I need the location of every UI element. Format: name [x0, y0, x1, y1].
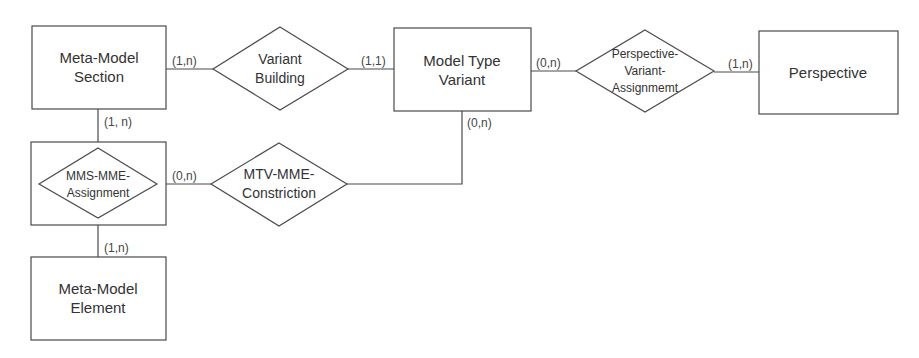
entity-meta-model-element[interactable]: Meta-Model Element: [31, 257, 166, 340]
relationship-label-line2: Assignment: [67, 186, 130, 200]
entity-label-line1: Perspective: [789, 64, 867, 81]
entity-label-line1: Meta-Model: [59, 49, 138, 66]
relationship-label-line1: Perspective-: [612, 47, 679, 61]
cardinality-vb-mtv: (1,1): [361, 54, 386, 68]
relationship-label-line2: Variant-: [624, 64, 665, 78]
relationship-label-line1: MMS-MME-: [66, 169, 130, 183]
relationship-perspective-variant-assignment[interactable]: Perspective- Variant- Assignmemt: [576, 30, 714, 112]
cardinality-mmsmme-mtvmme: (0,n): [172, 169, 197, 183]
relationship-mtv-mme-constriction[interactable]: MTV-MME- Constriction: [211, 143, 347, 226]
relationship-label-line3: Assignmemt: [612, 81, 679, 95]
er-diagram: Meta-Model Section Variant Building Mode…: [0, 0, 919, 358]
entity-perspective[interactable]: Perspective: [759, 31, 898, 114]
relationship-label-line2: Building: [255, 70, 305, 86]
entity-label-line2: Variant: [439, 71, 486, 88]
entity-label-line1: Model Type: [423, 52, 500, 69]
entity-meta-model-section[interactable]: Meta-Model Section: [32, 26, 166, 109]
cardinality-mms-vb: (1,n): [172, 54, 197, 68]
relationship-label-line2: Constriction: [242, 185, 316, 201]
link-mtv-mtvmme: [347, 111, 462, 184]
relationship-label-line1: MTV-MME-: [244, 166, 315, 182]
cardinality-mtv-pva: (0,n): [536, 56, 561, 70]
cardinality-mtv-mtvmme: (0,n): [467, 116, 492, 130]
entity-model-type-variant[interactable]: Model Type Variant: [394, 28, 531, 111]
relationship-mms-mme-assignment[interactable]: MMS-MME- Assignment: [31, 142, 166, 225]
cardinality-mms-mmsmme: (1, n): [104, 115, 132, 129]
cardinality-pva-persp: (1,n): [728, 57, 753, 71]
cardinality-mmsmme-mme: (1,n): [104, 241, 129, 255]
relationship-label-line1: Variant: [258, 51, 301, 67]
entity-label-line2: Section: [74, 68, 124, 85]
relationship-variant-building[interactable]: Variant Building: [213, 27, 348, 110]
entity-label-line1: Meta-Model: [58, 280, 137, 297]
entity-label-line2: Element: [70, 299, 126, 316]
